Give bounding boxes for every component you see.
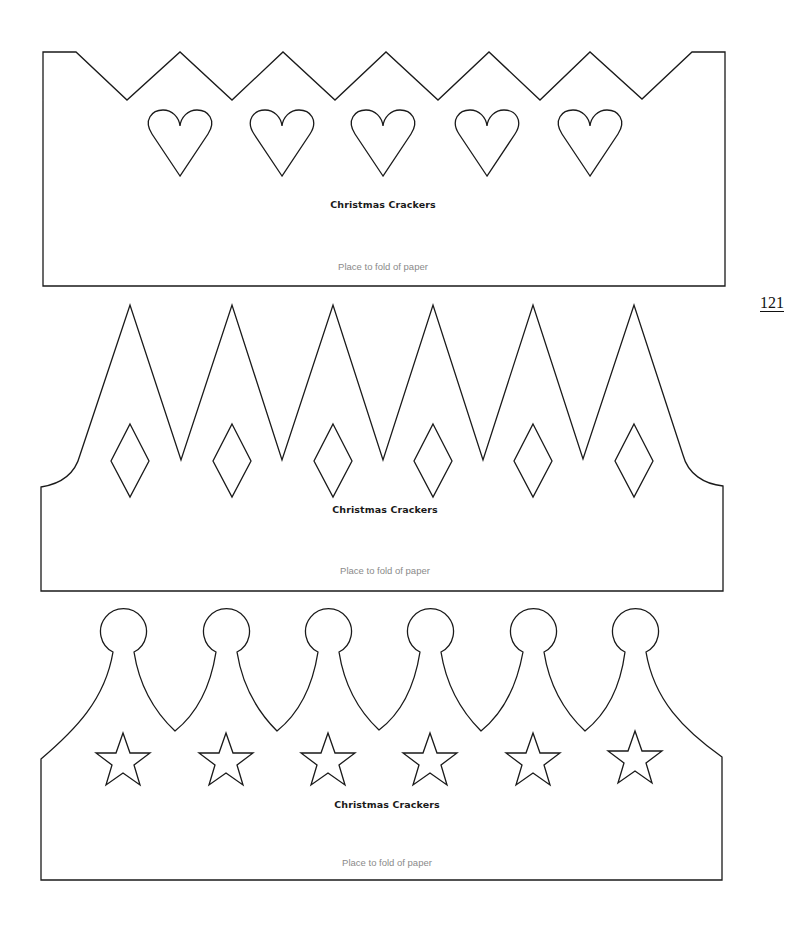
star-cutouts xyxy=(96,731,662,785)
ball-crown-template xyxy=(41,609,722,880)
star-icon xyxy=(403,733,457,785)
heart-icon xyxy=(558,110,621,176)
crown-2-fold-note: Place to fold of paper xyxy=(340,565,430,576)
heart-cutouts xyxy=(148,110,621,176)
heart-icon xyxy=(250,110,313,176)
ball-crown-outline xyxy=(41,609,722,880)
diamond-cutouts xyxy=(111,424,653,497)
crown-1-fold-note: Place to fold of paper xyxy=(338,261,428,272)
spike-crown-template xyxy=(41,305,723,591)
diamond-icon xyxy=(514,424,552,497)
heart-icon xyxy=(455,110,518,176)
page-number: 121 xyxy=(760,294,784,312)
diamond-icon xyxy=(615,424,653,497)
star-icon xyxy=(301,733,355,785)
heart-icon xyxy=(148,110,211,176)
spike-crown-outline xyxy=(41,305,723,591)
heart-icon xyxy=(351,110,414,176)
crown-templates-drawing xyxy=(0,0,798,928)
crown-2-title: Christmas Crackers xyxy=(332,504,438,515)
diamond-icon xyxy=(414,424,452,497)
star-icon xyxy=(199,733,253,785)
crown-1-title: Christmas Crackers xyxy=(330,199,436,210)
crown-3-fold-note: Place to fold of paper xyxy=(342,857,432,868)
zigzag-crown-outline xyxy=(43,52,725,286)
zigzag-crown-template xyxy=(43,52,725,286)
star-icon xyxy=(506,733,560,785)
crown-3-title: Christmas Crackers xyxy=(334,799,440,810)
star-icon xyxy=(608,731,662,783)
diamond-icon xyxy=(213,424,251,497)
diamond-icon xyxy=(314,424,352,497)
diamond-icon xyxy=(111,424,149,497)
star-icon xyxy=(96,733,150,785)
